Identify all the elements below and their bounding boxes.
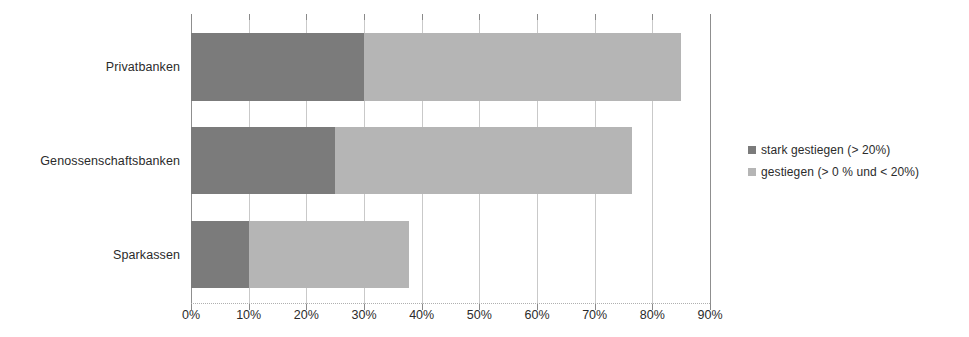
y-axis-label-sparkassen: Sparkassen xyxy=(0,248,180,262)
legend-swatch-icon xyxy=(748,146,756,154)
bar-chart: Privatbanken Genossenschaftsbanken Spark… xyxy=(0,0,969,337)
x-tick-label-20: 20% xyxy=(294,308,319,322)
chart-legend: stark gestiegen (> 20%) gestiegen (> 0 %… xyxy=(748,140,963,184)
bar-segment-gestiegen xyxy=(364,33,681,101)
x-axis-baseline xyxy=(191,302,710,304)
legend-label: stark gestiegen (> 20%) xyxy=(761,143,890,157)
y-axis-label-genossenschaftsbanken: Genossenschaftsbanken xyxy=(0,154,180,168)
x-axis-tick-labels: 0% 10% 20% 30% 40% 50% 60% 70% 80% 90% xyxy=(191,308,710,332)
legend-item-gestiegen: gestiegen (> 0 % und < 20%) xyxy=(748,162,963,182)
tick-top-10 xyxy=(249,14,250,20)
x-tick-label-40: 40% xyxy=(409,308,434,322)
bar-row-sparkassen xyxy=(191,221,710,288)
bar-segment-gestiegen xyxy=(335,127,632,194)
y-axis-label-privatbanken: Privatbanken xyxy=(0,60,180,74)
legend-label: gestiegen (> 0 % und < 20%) xyxy=(761,165,919,179)
legend-swatch-icon xyxy=(748,168,756,176)
x-tick-label-80: 80% xyxy=(640,308,665,322)
bar-segment-stark-gestiegen xyxy=(191,33,364,101)
bar-row-privatbanken xyxy=(191,33,710,101)
tick-top-0 xyxy=(191,14,192,20)
tick-top-80 xyxy=(652,14,653,20)
gridline-90 xyxy=(710,14,711,304)
plot-area xyxy=(191,14,710,304)
tick-top-40 xyxy=(422,14,423,20)
x-tick-label-30: 30% xyxy=(351,308,376,322)
legend-item-stark-gestiegen: stark gestiegen (> 20%) xyxy=(748,140,963,160)
tick-top-30 xyxy=(364,14,365,20)
x-tick-label-10: 10% xyxy=(236,308,261,322)
bar-row-genossenschaftsbanken xyxy=(191,127,710,194)
x-tick-label-0: 0% xyxy=(182,308,200,322)
y-axis-labels: Privatbanken Genossenschaftsbanken Spark… xyxy=(0,0,180,337)
tick-top-70 xyxy=(595,14,596,20)
bar-segment-stark-gestiegen xyxy=(191,221,249,288)
bar-segment-gestiegen xyxy=(249,221,409,288)
tick-top-90 xyxy=(710,14,711,20)
tick-top-20 xyxy=(306,14,307,20)
bar-segment-stark-gestiegen xyxy=(191,127,335,194)
x-tick-label-70: 70% xyxy=(582,308,607,322)
x-tick-label-60: 60% xyxy=(524,308,549,322)
x-tick-label-50: 50% xyxy=(467,308,492,322)
tick-top-50 xyxy=(479,14,480,20)
tick-top-60 xyxy=(537,14,538,20)
x-tick-label-90: 90% xyxy=(697,308,722,322)
